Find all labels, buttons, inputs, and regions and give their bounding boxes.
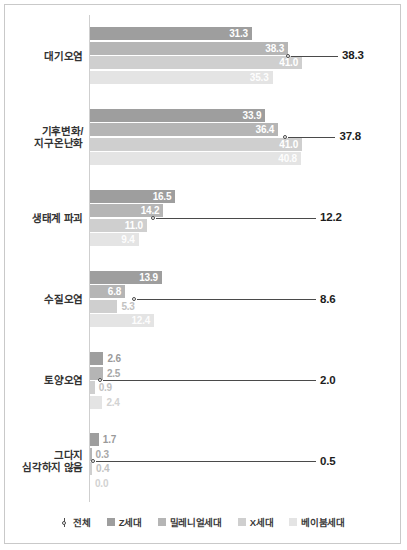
category-label-line: 생태계 파괴: [3, 212, 83, 224]
overall-marker-dot: [151, 216, 155, 220]
bar-fill: [90, 352, 103, 365]
bar-fill: [90, 109, 265, 122]
bar-fill: [90, 152, 301, 165]
bar[interactable]: 33.9: [90, 109, 265, 122]
overall-marker[interactable]: 2.0: [90, 374, 395, 387]
overall-marker-leader-line: [137, 299, 316, 300]
bar[interactable]: 9.4: [90, 233, 139, 246]
bar-value-label: 2.6: [107, 352, 120, 365]
legend-label: 전체: [73, 515, 90, 529]
overall-marker[interactable]: 37.8: [90, 130, 395, 143]
category-label-line: 심각하지 않음: [3, 461, 83, 473]
category-label-line: 그다지: [3, 449, 83, 461]
bar-value-label: 9.4: [121, 233, 134, 246]
category-label: 토양오염: [3, 374, 83, 386]
bar-group: 대기오염31.338.341.035.338.3: [89, 27, 394, 84]
overall-marker-leader-line: [103, 380, 316, 381]
bar-value-label: 35.3: [250, 71, 269, 84]
bar-value-label: 12.4: [131, 314, 150, 327]
overall-marker-label: 12.2: [320, 211, 342, 224]
overall-marker[interactable]: 38.3: [90, 49, 395, 62]
overall-marker-dot: [91, 459, 95, 463]
plot-area: 대기오염31.338.341.035.338.3기후변화/지구온난화33.936…: [89, 15, 394, 502]
bar-group: 기후변화/지구온난화33.936.441.040.837.8: [89, 109, 394, 166]
legend-swatch-icon: [158, 518, 166, 526]
legend-label: Z세대: [119, 515, 142, 529]
bar[interactable]: 13.9: [90, 271, 162, 284]
bar[interactable]: 2.4: [90, 396, 102, 409]
bar[interactable]: 2.6: [90, 352, 103, 365]
overall-marker-dot: [286, 54, 290, 58]
legend-item[interactable]: X세대: [238, 515, 273, 529]
legend-item[interactable]: 밀레니얼세대: [158, 515, 222, 529]
category-label-line: 수질오염: [3, 293, 83, 305]
legend-label: 베이붐세대: [301, 515, 345, 529]
overall-marker[interactable]: 8.6: [90, 293, 395, 306]
category-label-line: 토양오염: [3, 374, 83, 386]
bar-value-label: 16.5: [153, 190, 172, 203]
legend-label: X세대: [250, 515, 273, 529]
overall-marker-leader-line: [291, 56, 338, 57]
bar[interactable]: 40.8: [90, 152, 301, 165]
chart-legend: 전체Z세대밀레니얼세대X세대베이붐세대: [5, 515, 400, 529]
bar-value-label: 40.8: [278, 152, 297, 165]
legend-marker-icon: [60, 518, 69, 527]
legend-swatch-icon: [107, 518, 115, 526]
overall-marker-label: 38.3: [342, 49, 364, 62]
bar-group: 수질오염13.96.85.312.48.6: [89, 271, 394, 328]
overall-marker-dot: [98, 378, 102, 382]
legend-swatch-icon: [289, 518, 297, 526]
overall-marker-leader-line: [96, 461, 316, 462]
bar[interactable]: 31.3: [90, 27, 252, 40]
bar-fill: [90, 27, 252, 40]
legend-item[interactable]: 베이붐세대: [289, 515, 345, 529]
overall-marker-label: 8.6: [320, 293, 335, 306]
category-label: 그다지심각하지 않음: [3, 449, 83, 473]
bar[interactable]: 0.0: [90, 477, 91, 490]
bar-fill: [90, 71, 273, 84]
category-label: 기후변화/지구온난화: [3, 125, 83, 149]
legend-label: 밀레니얼세대: [170, 515, 222, 529]
overall-marker[interactable]: 0.5: [90, 455, 395, 468]
bar-value-label: 1.7: [103, 433, 116, 446]
overall-marker-leader-line: [288, 137, 335, 138]
bar-value-label: 2.4: [106, 396, 119, 409]
overall-marker-label: 2.0: [320, 374, 335, 387]
bar[interactable]: 35.3: [90, 71, 273, 84]
bar-fill: [90, 433, 99, 446]
bar-group: 토양오염2.62.50.92.42.0: [89, 352, 394, 409]
overall-marker-dot: [283, 135, 287, 139]
y-axis-line: [89, 15, 90, 502]
overall-marker-leader-line: [156, 218, 316, 219]
bar-value-label: 13.9: [139, 271, 158, 284]
overall-marker[interactable]: 12.2: [90, 211, 395, 224]
bar-value-label: 0.0: [95, 477, 108, 490]
bar[interactable]: 12.4: [90, 314, 154, 327]
legend-swatch-icon: [238, 518, 246, 526]
category-label-line: 기후변화/: [3, 125, 83, 137]
overall-marker-label: 0.5: [320, 455, 335, 468]
overall-marker-dot: [132, 297, 136, 301]
category-label: 대기오염: [3, 50, 83, 62]
overall-marker-label: 37.8: [339, 130, 361, 143]
category-label: 수질오염: [3, 293, 83, 305]
bar-group: 생태계 파괴16.514.211.09.412.2: [89, 190, 394, 247]
category-label-line: 대기오염: [3, 50, 83, 62]
bar-group: 그다지심각하지 않음1.70.30.40.00.5: [89, 433, 394, 490]
category-label: 생태계 파괴: [3, 212, 83, 224]
bar-value-label: 31.3: [229, 27, 248, 40]
chart-frame: 대기오염31.338.341.035.338.3기후변화/지구온난화33.936…: [4, 4, 401, 544]
legend-item[interactable]: 전체: [60, 515, 90, 529]
bar[interactable]: 1.7: [90, 433, 99, 446]
bar[interactable]: 16.5: [90, 190, 175, 203]
legend-item[interactable]: Z세대: [107, 515, 142, 529]
bar-value-label: 33.9: [243, 109, 262, 122]
bar-fill: [90, 396, 102, 409]
category-label-line: 지구온난화: [3, 137, 83, 149]
